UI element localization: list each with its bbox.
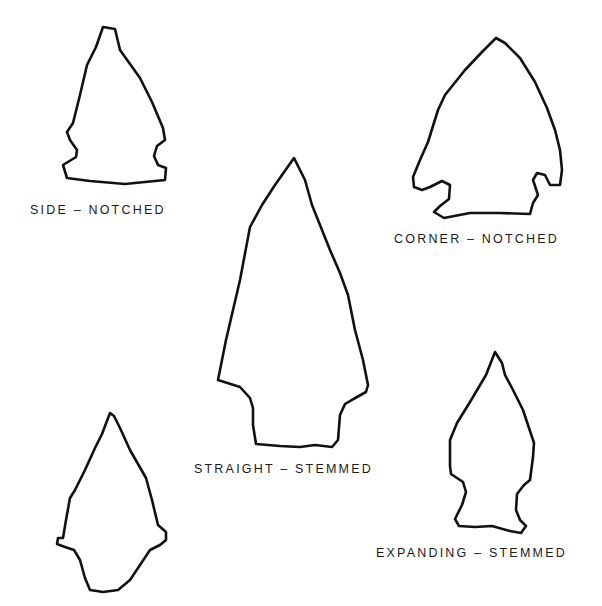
- expanding-stemmed-point-outline: [450, 352, 534, 533]
- corner-notched-label: CORNER – NOTCHED: [394, 232, 559, 246]
- diagram-canvas: SIDE – NOTCHED CORNER – NOTCHED STRAIGHT…: [0, 0, 602, 606]
- shapes-layer: [0, 0, 602, 606]
- straight-stemmed-point-outline: [218, 158, 368, 447]
- contracting-stemmed-point-outline: [57, 413, 166, 592]
- side-notched-point-outline: [63, 27, 166, 184]
- corner-notched-point-outline: [413, 38, 562, 218]
- straight-stemmed-label: STRAIGHT – STEMMED: [194, 462, 373, 476]
- expanding-stemmed-label: EXPANDING – STEMMED: [376, 546, 567, 560]
- side-notched-label: SIDE – NOTCHED: [30, 203, 166, 217]
